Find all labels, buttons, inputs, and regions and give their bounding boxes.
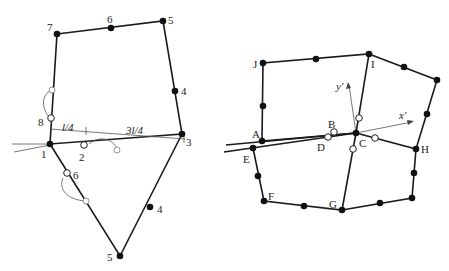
label-2: 2	[79, 151, 85, 163]
node-JI-mid	[313, 56, 320, 63]
node-C	[353, 130, 360, 137]
label-4: 4	[181, 85, 187, 97]
label-J: J	[253, 58, 258, 70]
label-3: 3	[186, 136, 192, 148]
label-I: I	[371, 58, 375, 70]
label-F: F	[268, 190, 274, 202]
node-E	[250, 145, 257, 152]
hollow-node-lower	[350, 146, 357, 153]
node-EF-mid	[255, 173, 262, 180]
label-C: C	[359, 137, 366, 149]
label-7: 7	[47, 21, 53, 33]
hollow-node-original-8	[49, 87, 55, 93]
node-4-top	[172, 88, 179, 95]
curved-arrow-8	[44, 90, 53, 118]
label-4-lower: 4	[157, 203, 163, 215]
node-H	[413, 146, 420, 153]
y-prime-arrowhead	[346, 82, 351, 89]
hollow-node-original-2	[114, 147, 120, 153]
node-7	[54, 31, 61, 38]
label-6-lower: 6	[73, 169, 79, 181]
label-B: B	[328, 118, 335, 130]
crack-lower	[224, 133, 356, 152]
label-x-prime: x′	[398, 109, 407, 121]
node-6-top	[108, 25, 115, 32]
node-G	[339, 207, 346, 214]
left-diagram: 7 6 5 4 8 1 2 3 6 4 5 l/4 3l/4	[12, 13, 192, 263]
label-8: 8	[38, 116, 44, 128]
hollow-node-D	[325, 134, 332, 141]
node-H-lower-mid	[411, 170, 418, 177]
node-I-right-mid	[401, 64, 408, 71]
label-E: E	[243, 153, 250, 165]
element-ICH-edges	[356, 54, 437, 149]
label-6: 6	[107, 13, 113, 25]
node-JA-mid	[260, 103, 267, 110]
hollow-node-original-6	[83, 198, 89, 204]
label-5: 5	[168, 14, 174, 26]
node-5-top	[160, 18, 167, 25]
label-D: D	[317, 141, 325, 153]
label-A: A	[252, 128, 260, 140]
node-bottom-right	[409, 195, 416, 202]
node-right-mid	[424, 111, 431, 118]
x-prime-axis	[356, 122, 412, 133]
right-diagram: J I A B C D E F G H x′ y′	[224, 51, 440, 214]
node-J	[260, 60, 267, 67]
x-prime-arrowhead	[407, 120, 414, 125]
node-5-bottom	[117, 253, 124, 260]
label-1: 1	[41, 148, 47, 160]
label-y-prime: y′	[335, 80, 344, 92]
label-5-lower: 5	[107, 251, 113, 263]
label-H: H	[421, 143, 429, 155]
node-I	[366, 51, 373, 58]
hollow-node-6	[64, 170, 71, 177]
node-4-bottom	[147, 204, 154, 211]
node-3	[179, 131, 186, 138]
diagram-canvas: 7 6 5 4 8 1 2 3 6 4 5 l/4 3l/4	[0, 0, 449, 271]
dimension-label-quarter: l/4	[62, 121, 74, 133]
dimension-label-three-quarter: 3l/4	[125, 124, 144, 136]
hollow-node-8	[48, 115, 55, 122]
node-1	[47, 141, 54, 148]
hollow-node-upper	[356, 115, 363, 122]
node-top-right	[434, 77, 441, 84]
element-AJIC-edges	[262, 54, 369, 141]
label-G: G	[329, 198, 337, 210]
node-GH-mid	[377, 200, 384, 207]
y-prime-axis	[349, 85, 356, 133]
hollow-node-2	[81, 142, 88, 149]
node-FG-mid	[301, 203, 308, 210]
node-F	[261, 198, 268, 205]
hollow-node-right	[372, 135, 379, 142]
